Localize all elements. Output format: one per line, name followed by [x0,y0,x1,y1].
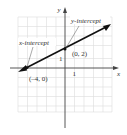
y-axis-arrow-icon [63,7,67,13]
coordinate-plane: y-intercept x-intercept (0, 2) (–4, 0) 1… [0,0,127,135]
x-intercept-point-label: (–4, 0) [29,75,48,83]
line-arrow-right-icon [103,24,111,31]
y-axis-label: y [57,6,62,14]
x-axis-label: x [116,70,121,78]
x-intercept-label: x-intercept [18,39,50,47]
y-intercept-point-label: (0, 2) [72,50,88,58]
graph-line [18,24,111,72]
line-arrow-left-icon [18,65,27,72]
y-intercept-label: y-intercept [70,17,102,25]
x-tick-label: 1 [73,70,77,78]
y-tick-label: 1 [59,55,63,63]
